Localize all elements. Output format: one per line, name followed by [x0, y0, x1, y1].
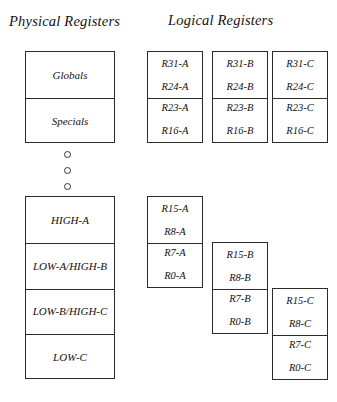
- ellipsis-dot-3: [64, 183, 71, 190]
- logical-column-a-bottom-box: R15-A R8-A R7-A R0-A: [147, 196, 203, 288]
- logical-a-r31-label: R31-A: [148, 58, 202, 69]
- logical-c-r16-label: R16-C: [273, 125, 327, 136]
- physical-section-low-b-high-c-label: LOW-B/HIGH-C: [33, 305, 108, 317]
- logical-column-c-bottom-box: R15-C R8-C R7-C R0-C: [272, 288, 328, 380]
- logical-c-bottom-divider: [273, 335, 327, 336]
- logical-c-top-divider: [273, 98, 327, 99]
- logical-b-top-divider: [213, 98, 267, 99]
- physical-section-globals: Globals: [26, 52, 114, 98]
- physical-top-box: Globals Specials: [25, 51, 115, 143]
- logical-b-r23-label: R23-B: [213, 102, 267, 113]
- physical-section-globals-label: Globals: [53, 69, 88, 81]
- logical-c-r15-label: R15-C: [273, 295, 327, 306]
- ellipsis-dot-1: [64, 151, 71, 158]
- logical-a-bottom-divider: [148, 243, 202, 244]
- logical-a-r16-label: R16-A: [148, 125, 202, 136]
- physical-registers-heading: Physical Registers: [9, 13, 120, 30]
- logical-a-top-divider: [148, 98, 202, 99]
- logical-c-r7-label: R7-C: [273, 339, 327, 350]
- logical-a-r7-label: R7-A: [148, 247, 202, 258]
- logical-a-r24-label: R24-A: [148, 81, 202, 92]
- physical-section-high-a-label: HIGH-A: [51, 214, 89, 226]
- logical-b-r0-label: R0-B: [213, 316, 267, 327]
- logical-b-r7-label: R7-B: [213, 293, 267, 304]
- logical-c-r0-label: R0-C: [273, 362, 327, 373]
- physical-section-specials: Specials: [26, 98, 114, 144]
- logical-a-r8-label: R8-A: [148, 226, 202, 237]
- logical-a-r23-label: R23-A: [148, 102, 202, 113]
- register-window-diagram: Physical Registers Logical Registers Glo…: [0, 0, 337, 402]
- physical-section-low-c: LOW-C: [26, 334, 114, 380]
- logical-column-b-top-box: R31-B R24-B R23-B R16-B: [212, 51, 268, 143]
- logical-b-r31-label: R31-B: [213, 58, 267, 69]
- physical-section-low-b-high-c: LOW-B/HIGH-C: [26, 289, 114, 335]
- logical-b-r16-label: R16-B: [213, 125, 267, 136]
- logical-column-b-bottom-box: R15-B R8-B R7-B R0-B: [212, 242, 268, 334]
- logical-b-r8-label: R8-B: [213, 272, 267, 283]
- logical-a-r0-label: R0-A: [148, 270, 202, 281]
- logical-registers-heading: Logical Registers: [168, 12, 273, 29]
- logical-c-r24-label: R24-C: [273, 81, 327, 92]
- logical-column-a-top-box: R31-A R24-A R23-A R16-A: [147, 51, 203, 143]
- logical-b-r24-label: R24-B: [213, 81, 267, 92]
- logical-column-c-top-box: R31-C R24-C R23-C R16-C: [272, 51, 328, 143]
- logical-c-r31-label: R31-C: [273, 58, 327, 69]
- logical-c-r8-label: R8-C: [273, 318, 327, 329]
- physical-section-low-c-label: LOW-C: [53, 351, 87, 363]
- logical-c-r23-label: R23-C: [273, 102, 327, 113]
- logical-a-r15-label: R15-A: [148, 203, 202, 214]
- logical-b-r15-label: R15-B: [213, 249, 267, 260]
- physical-section-low-a-high-b-label: LOW-A/HIGH-B: [33, 260, 107, 272]
- physical-bottom-box: HIGH-A LOW-A/HIGH-B LOW-B/HIGH-C LOW-C: [25, 196, 115, 379]
- physical-section-high-a: HIGH-A: [26, 197, 114, 243]
- logical-b-bottom-divider: [213, 289, 267, 290]
- ellipsis-dot-2: [64, 167, 71, 174]
- physical-section-specials-label: Specials: [52, 115, 89, 127]
- physical-section-low-a-high-b: LOW-A/HIGH-B: [26, 243, 114, 289]
